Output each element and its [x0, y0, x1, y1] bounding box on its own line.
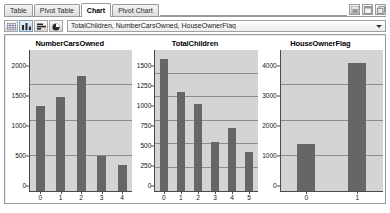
pin-window-icon[interactable] — [349, 4, 360, 15]
y-axis: 0500100015002000 — [7, 50, 29, 203]
x-axis-tick-label: 0 — [38, 192, 42, 201]
gridline — [155, 167, 257, 168]
chart-houseownerflag: HouseOwnerFlag0100020003000400001 — [258, 36, 383, 203]
maximize-window-icon[interactable] — [362, 4, 373, 15]
view-tabstrip: TablePivot TableChartPivot Chart — [4, 3, 386, 17]
column-selector-value: TotalChildren, NumberCarsOwned, HouseOwn… — [68, 22, 236, 29]
charts-container: NumberCarsOwned050010001500200001234Tota… — [5, 35, 385, 203]
charts-panel: NumberCarsOwned050010001500200001234Tota… — [4, 34, 386, 204]
horizontal-bar-chart-icon[interactable] — [34, 20, 48, 32]
tabstrip-filler — [160, 4, 347, 16]
x-axis-tick-label: 3 — [213, 192, 217, 201]
y-axis-tick-label: 500 — [15, 152, 26, 159]
plot-wrapper: 01 — [280, 50, 383, 203]
plot-wrapper: 012345 — [154, 50, 257, 203]
x-axis-tick-label: 2 — [79, 192, 83, 201]
x-axis: 01 — [281, 192, 383, 203]
x-axis-tick-label: 3 — [100, 192, 104, 201]
chart-totalchildren: TotalChildren025050075010001250150001234… — [132, 36, 257, 203]
x-axis: 012345 — [155, 192, 257, 203]
restore-window-icon[interactable] — [375, 4, 386, 15]
plot-area — [154, 50, 257, 192]
y-axis-tick-label: 3000 — [262, 92, 276, 99]
bar[interactable] — [211, 142, 219, 191]
bar[interactable] — [160, 59, 168, 191]
y-axis-tick-label: 1000 — [137, 102, 151, 109]
chart-numbercarsowned: NumberCarsOwned050010001500200001234 — [7, 36, 132, 203]
x-axis-tick-label: 1 — [59, 192, 63, 201]
gridline — [155, 96, 257, 97]
y-axis-tick-label: 1000 — [12, 122, 26, 129]
tab-table[interactable]: Table — [4, 4, 33, 16]
chart-body: 050010001500200001234 — [7, 50, 132, 203]
bar[interactable] — [177, 92, 185, 191]
bar[interactable] — [77, 76, 86, 191]
y-axis-tick-label: 2000 — [262, 122, 276, 129]
gridline — [155, 120, 257, 121]
gridline — [281, 84, 383, 85]
y-axis-tick-label: 1250 — [137, 82, 151, 89]
gridline — [155, 143, 257, 144]
column-selector-dropdown[interactable]: TotalChildren, NumberCarsOwned, HouseOwn… — [67, 20, 386, 32]
tab-pivot-chart[interactable]: Pivot Chart — [112, 4, 159, 16]
y-axis-tick-label: 4000 — [262, 62, 276, 69]
y-axis-tick-label: 250 — [140, 162, 151, 169]
y-axis-tick-label: 0 — [273, 182, 277, 189]
tab-chart[interactable]: Chart — [81, 3, 111, 17]
x-axis-tick-label: 1 — [356, 192, 360, 201]
x-axis-tick-label: 1 — [179, 192, 183, 201]
plot-area — [280, 50, 383, 192]
chart-type-button-group — [4, 20, 64, 32]
y-axis-tick-label: 2000 — [12, 62, 26, 69]
tab-pivot-table[interactable]: Pivot Table — [34, 4, 80, 16]
bar[interactable] — [245, 152, 253, 191]
chart-title: HouseOwnerFlag — [258, 36, 383, 50]
bar[interactable] — [228, 128, 236, 191]
x-axis-tick-label: 5 — [247, 192, 251, 201]
bar[interactable] — [97, 156, 106, 191]
pie-chart-icon[interactable] — [49, 20, 63, 32]
y-axis-tick-label: 1500 — [12, 92, 26, 99]
plot-area — [29, 50, 132, 192]
y-axis: 0250500750100012501500 — [132, 50, 154, 203]
bar-chart-icon[interactable] — [19, 20, 33, 32]
chevron-down-icon[interactable] — [376, 25, 382, 28]
x-axis-tick-label: 4 — [120, 192, 124, 201]
y-axis-tick-label: 1000 — [262, 152, 276, 159]
x-axis-tick-label: 0 — [304, 192, 308, 201]
y-axis-tick-label: 500 — [140, 142, 151, 149]
x-axis: 01234 — [30, 192, 132, 203]
y-axis-tick-label: 0 — [22, 182, 26, 189]
bar[interactable] — [36, 106, 45, 191]
y-axis-tick-label: 1500 — [137, 62, 151, 69]
plot-wrapper: 01234 — [29, 50, 132, 203]
gridline — [155, 73, 257, 74]
grid-view-icon[interactable] — [4, 20, 18, 32]
bar[interactable] — [348, 63, 366, 191]
x-axis-tick-label: 4 — [230, 192, 234, 201]
chart-toolbar: TotalChildren, NumberCarsOwned, HouseOwn… — [4, 19, 386, 32]
y-axis-tick-label: 0 — [148, 182, 152, 189]
chart-body: 0250500750100012501500012345 — [132, 50, 257, 203]
bar[interactable] — [297, 144, 315, 191]
x-axis-tick-label: 0 — [162, 192, 166, 201]
gridline — [281, 155, 383, 156]
chart-title: NumberCarsOwned — [7, 36, 132, 50]
gridline — [281, 120, 383, 121]
x-axis-tick-label: 2 — [196, 192, 200, 201]
bar[interactable] — [194, 104, 202, 191]
bar[interactable] — [56, 97, 65, 191]
chart-viewer-window: TablePivot TableChartPivot Chart TotalCh… — [0, 0, 390, 213]
chart-title: TotalChildren — [132, 36, 257, 50]
y-axis: 01000200030004000 — [258, 50, 280, 203]
bar[interactable] — [118, 165, 127, 191]
y-axis-tick-label: 750 — [140, 122, 151, 129]
chart-body: 0100020003000400001 — [258, 50, 383, 203]
